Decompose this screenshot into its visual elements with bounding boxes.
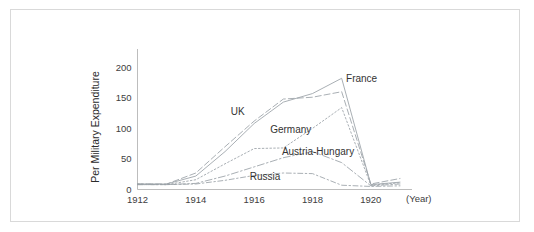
x-axis-unit-label: (Year) (406, 193, 432, 204)
y-tick-label: 100 (116, 123, 132, 134)
series-label-group: FranceUKGermanyAustria-HungaryRussia (231, 73, 378, 182)
y-axis-title: Per Military Expenditure (89, 71, 101, 183)
x-tick-label: 1912 (127, 194, 148, 205)
x-tick-label: 1914 (185, 194, 206, 205)
x-tick-label: 1918 (302, 194, 323, 205)
chart-figure: 050100150200 19121914191619181920 France… (0, 0, 534, 232)
series-label-austria-hungary: Austria-Hungary (282, 146, 354, 157)
series-line-france (138, 78, 401, 184)
y-tick-label: 50 (121, 153, 132, 164)
series-label-france: France (346, 73, 378, 84)
line-chart-canvas: 050100150200 19121914191619181920 France… (0, 0, 534, 232)
x-tick-label: 1916 (244, 194, 265, 205)
series-label-germany: Germany (270, 124, 311, 135)
y-axis-tick-labels: 050100150200 (116, 62, 132, 195)
series-label-russia: Russia (250, 171, 281, 182)
y-tick-label: 200 (116, 62, 132, 73)
x-axis-tick-labels: 19121914191619181920 (127, 194, 381, 205)
y-tick-label: 150 (116, 92, 132, 103)
axes-group (138, 49, 413, 190)
series-label-uk: UK (231, 106, 245, 117)
x-tick-label: 1920 (360, 194, 381, 205)
